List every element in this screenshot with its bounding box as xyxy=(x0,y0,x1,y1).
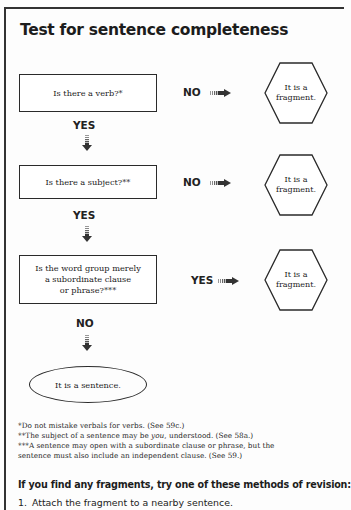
outcome-text-line2: fragment. xyxy=(276,185,316,194)
footnote-3: ***A sentence may open with a subordinat… xyxy=(18,441,338,451)
frame-left-border xyxy=(4,7,6,510)
final-text: It is a sentence. xyxy=(55,380,121,390)
right-arrow-icon xyxy=(210,89,232,97)
footnote-2-italic: you xyxy=(151,431,164,440)
outcome-fragment-1: It is afragment. xyxy=(264,62,328,124)
footnotes: *Do not mistake verbals for verbs. (See … xyxy=(18,421,338,461)
question-box-verb: Is there a verb?* xyxy=(19,74,157,112)
down-arrow-icon xyxy=(82,226,92,242)
question-box-subject: Is there a subject?** xyxy=(19,165,157,199)
branch-label-no: NO xyxy=(183,176,201,188)
right-arrow-icon xyxy=(218,277,240,285)
down-arrow-icon xyxy=(82,135,92,151)
footnote-2-text: **The subject of a sentence may be xyxy=(18,431,151,440)
frame-top-border xyxy=(4,7,344,9)
outcome-text-line1: It is a xyxy=(285,175,308,184)
outcome-text-line1: It is a xyxy=(285,83,308,92)
question-box-subordinate: Is the word group merelya subordinate cl… xyxy=(19,255,157,304)
revision-list: 1.Attach the fragment to a nearby senten… xyxy=(18,497,233,508)
branch-label-no: NO xyxy=(183,86,201,98)
list-item-text: Attach the fragment to a nearby sentence… xyxy=(32,497,233,508)
outcome-fragment-2: It is afragment. xyxy=(264,154,328,216)
question-text-line3: or phrase?*** xyxy=(60,285,116,295)
question-text: Is there a verb?* xyxy=(53,88,122,99)
footnote-2: **The subject of a sentence may be you, … xyxy=(18,431,338,441)
page-title: Test for sentence completeness xyxy=(20,21,288,39)
footnote-3-cont: sentence must also include an independen… xyxy=(18,451,338,461)
outcome-sentence: It is a sentence. xyxy=(29,366,147,403)
branch-label-yes: YES xyxy=(191,274,213,286)
continue-label-yes: YES xyxy=(73,119,95,131)
outcome-text-line1: It is a xyxy=(285,270,308,279)
continue-label-yes: YES xyxy=(73,209,95,221)
right-arrow-icon xyxy=(210,179,232,187)
outcome-text-line2: fragment. xyxy=(276,93,316,102)
question-text: Is there a subject?** xyxy=(46,177,131,188)
footnote-2-tail: , understood. (See 58a.) xyxy=(164,431,253,440)
question-text-line2: a subordinate clause xyxy=(45,274,131,284)
continue-label-no: NO xyxy=(76,317,94,329)
outcome-fragment-3: It is afragment. xyxy=(264,249,328,311)
footnote-1: *Do not mistake verbals for verbs. (See … xyxy=(18,421,338,431)
outcome-text-line2: fragment. xyxy=(276,280,316,289)
question-text-line1: Is the word group merely xyxy=(35,263,141,273)
revision-heading: If you find any fragments, try one of th… xyxy=(18,479,351,490)
down-arrow-icon xyxy=(82,335,92,351)
list-number: 1. xyxy=(18,497,32,508)
